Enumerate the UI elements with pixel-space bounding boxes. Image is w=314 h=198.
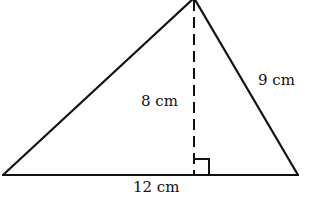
height-label: 8 cm [141, 94, 178, 109]
left-side [3, 0, 194, 175]
triangle-diagram: 8 cm 9 cm 12 cm [0, 0, 314, 198]
side-label: 9 cm [258, 73, 295, 88]
right-angle-marker [194, 159, 209, 175]
base-label: 12 cm [133, 180, 179, 195]
